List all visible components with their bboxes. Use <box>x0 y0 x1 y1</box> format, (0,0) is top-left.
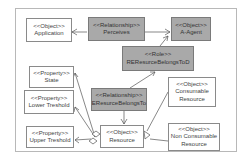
stereotype: <<Object>> <box>33 23 64 31</box>
stereotype: <<Relationship>> <box>93 22 140 30</box>
resource-node[interactable]: <<Object>> Resource <box>100 125 144 148</box>
stereotype: <<Object>> <box>106 129 137 137</box>
stereotype: <<Property>> <box>33 70 70 78</box>
role-node[interactable]: <<Role>> REResurceBelongsToD <box>122 46 194 71</box>
stereotype: <<Object>> <box>175 22 206 30</box>
upper-treshold-property-node[interactable]: <<Property>> Upper Treshold <box>26 126 74 148</box>
node-name: A-Agent <box>180 29 202 37</box>
application-node[interactable]: <<Object>> Application <box>26 18 72 42</box>
consumable-resource-node[interactable]: <<Object>> Consumable Resource <box>168 77 216 107</box>
node-name-line1: Non Consumable <box>171 133 217 141</box>
node-name: State <box>44 77 58 85</box>
node-name: Lower Treshold <box>28 102 69 110</box>
a-agent-node[interactable]: <<Object>> A-Agent <box>171 17 211 41</box>
node-name: Application <box>34 30 63 38</box>
stereotype: <<Property>> <box>32 130 69 138</box>
stereotype: <<Role>> <box>145 51 171 59</box>
belongs-to-node[interactable]: <<Relationship>> EResurceBelongsTo <box>91 88 147 111</box>
stereotype: <<Object>> <box>176 81 207 89</box>
node-name: Resource <box>109 137 135 145</box>
node-name: REResurceBelongsToD <box>126 59 189 67</box>
stereotype: <<Property>> <box>31 95 68 103</box>
stereotype: <<Relationship>> <box>95 92 142 100</box>
node-name: Upper Treshold <box>29 137 70 145</box>
perceives-node[interactable]: <<Relationship>> Perceives <box>88 17 145 41</box>
non-consumable-resource-node[interactable]: <<Object>> Non Consumable Resource <box>168 123 220 151</box>
node-name: Perceives <box>103 29 129 37</box>
node-name: EResurceBelongsTo <box>92 100 146 108</box>
stereotype: <<Object>> <box>178 126 209 134</box>
node-name-line2: Resource <box>181 141 207 149</box>
node-name-line1: Consumable <box>175 88 209 96</box>
node-name-line2: Resource <box>179 96 205 104</box>
state-property-node[interactable]: <<Property>> State <box>29 66 74 88</box>
lower-treshold-property-node[interactable]: <<Property>> Lower Treshold <box>24 90 74 114</box>
